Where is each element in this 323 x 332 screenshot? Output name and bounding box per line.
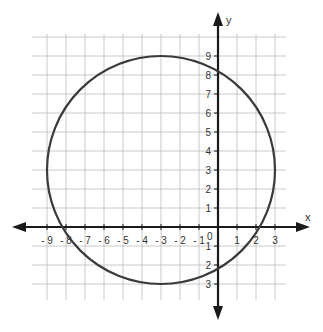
y-tick-label: 3 <box>205 279 211 290</box>
y-tick-label: 9 <box>205 51 211 62</box>
x-tick-label: - 6 <box>98 235 110 246</box>
x-axis-left-arrow-icon <box>12 222 26 232</box>
coordinate-plane: - 9- 8- 7- 6- 5- 4- 3- 2- 11233211234567… <box>0 0 323 332</box>
y-axis-down-arrow-icon <box>213 306 223 320</box>
x-tick-label: - 5 <box>117 235 129 246</box>
x-tick-label: - 2 <box>174 235 186 246</box>
y-tick-label: 5 <box>205 127 211 138</box>
y-tick-label: 8 <box>205 70 211 81</box>
x-axis-right-arrow-icon <box>296 222 310 232</box>
x-tick-label: - 9 <box>41 235 53 246</box>
y-tick-label: 2 <box>205 184 211 195</box>
origin-label: 0 <box>207 231 213 242</box>
y-tick-label: 4 <box>205 146 211 157</box>
y-axis-label: y <box>226 14 232 26</box>
x-tick-label: - 3 <box>155 235 167 246</box>
y-tick-label: 6 <box>205 108 211 119</box>
x-tick-label: - 7 <box>79 235 91 246</box>
x-tick-label: 1 <box>234 235 240 246</box>
y-tick-label: 3 <box>205 165 211 176</box>
y-tick-label: 7 <box>205 89 211 100</box>
y-tick-label: 2 <box>205 260 211 271</box>
x-tick-label: - 4 <box>136 235 148 246</box>
tick-labels: - 9- 8- 7- 6- 5- 4- 3- 2- 11233211234567… <box>41 51 278 290</box>
x-axis-label: x <box>305 211 311 223</box>
y-axis-up-arrow-icon <box>213 12 223 26</box>
y-tick-label: 1 <box>205 241 211 252</box>
x-tick-label: - 1 <box>193 235 205 246</box>
grid-lines <box>32 34 286 300</box>
y-tick-label: 1 <box>205 203 211 214</box>
x-tick-label: 3 <box>272 235 278 246</box>
